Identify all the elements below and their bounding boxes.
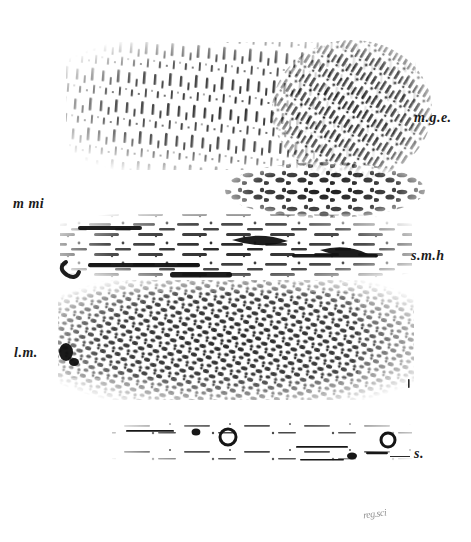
right-edge-tick <box>408 379 410 388</box>
band-longitudinal-muscle <box>58 280 414 400</box>
band-muscularis-mucosae <box>225 162 425 218</box>
tissue-ink-canvas <box>0 0 471 542</box>
label-muscularis-mucosae: m mi <box>13 196 44 212</box>
label-mucous-gland-epithelium: m.g.e. <box>414 110 452 126</box>
tissue-section-image <box>0 0 471 542</box>
plate-annotation-stamp: reg.sci <box>362 507 386 521</box>
label-serosa: s. <box>414 446 424 462</box>
band-mucous-gland-epithelium <box>66 40 432 180</box>
label-submucosa: s.m.h <box>411 248 445 264</box>
band-serosa <box>112 418 412 466</box>
serosa-leader-line <box>390 456 410 457</box>
histology-micrograph-figure: m.g.e. m mi s.m.h l.m. s. reg.sci <box>0 0 471 542</box>
band-submucosa <box>60 214 412 282</box>
label-longitudinal-muscle: l.m. <box>14 345 38 361</box>
